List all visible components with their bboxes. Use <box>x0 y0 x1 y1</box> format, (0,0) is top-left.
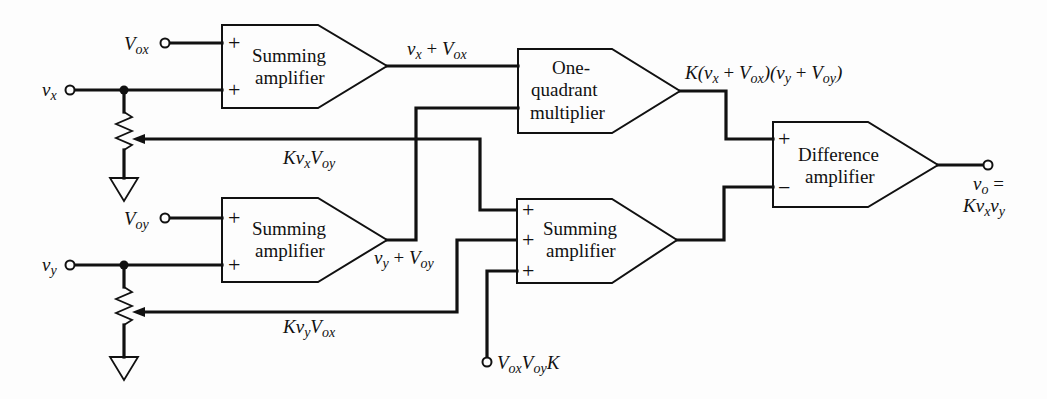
vx-terminal[interactable] <box>66 86 75 95</box>
sum-y-label-2: amplifier <box>255 240 325 261</box>
summing-amplifier-3-input: + + + Summing amplifier <box>517 197 677 283</box>
sum-x-label-1: Summing <box>252 45 326 66</box>
label-offset-constant: VoxVoyK <box>497 352 561 376</box>
wire-product <box>680 91 773 139</box>
sum3-plus-2: + <box>522 227 534 252</box>
summing-amplifier-x: + + Summing amplifier <box>222 25 387 108</box>
offset-constant-terminal[interactable] <box>483 358 492 367</box>
potentiometer-y <box>116 287 132 325</box>
ground-x-icon <box>110 178 138 201</box>
label-vy-plus-voy: vy + Voy <box>374 247 434 271</box>
voy-label: Voy <box>124 208 150 232</box>
one-quadrant-multiplier: One- quadrant multiplier <box>518 49 680 133</box>
voy-input: Voy <box>124 208 222 232</box>
sum-x-plus-2: + <box>228 77 240 102</box>
sum3-plus-3: + <box>522 258 534 283</box>
summing-amplifier-y: + + Summing amplifier <box>222 198 387 282</box>
label-vx-plus-vox: vx + Vox <box>407 38 467 62</box>
wiper-x-arrow-icon <box>132 134 145 144</box>
sum-y-plus-2: + <box>228 252 240 277</box>
vy-label: vy <box>42 254 57 278</box>
sum3-plus-1: + <box>522 197 534 222</box>
potentiometer-x <box>116 112 132 150</box>
ground-y-icon <box>110 357 138 380</box>
difference-amplifier: + − Difference amplifier <box>773 122 938 207</box>
vy-terminal[interactable] <box>66 261 75 270</box>
diff-plus-sign: + <box>778 126 790 151</box>
label-k-vx-voy: KvxVoy <box>282 147 336 171</box>
output-terminal[interactable] <box>984 161 993 170</box>
sum3-label-1: Summing <box>543 218 617 239</box>
diff-label-1: Difference <box>798 144 879 165</box>
voy-terminal[interactable] <box>161 214 170 223</box>
mult-label-3: multiplier <box>530 102 606 123</box>
vox-label: Vox <box>124 33 150 57</box>
sum-x-label-2: amplifier <box>255 67 325 88</box>
label-k-vy-vox: KvyVox <box>282 316 336 340</box>
sum-x-plus-1: + <box>228 30 240 55</box>
sum-y-plus-1: + <box>228 205 240 230</box>
output-vo: vo = Kvxvy <box>938 161 1006 220</box>
sum3-label-2: amplifier <box>546 240 616 261</box>
mult-label-1: One- <box>552 57 590 78</box>
four-quadrant-multiplier-diagram: + + Summing amplifier Vox vx + + Summing… <box>0 0 1047 399</box>
wire-vy-plus-voy <box>387 108 518 240</box>
offset-constant-input: VoxVoyK <box>483 271 561 376</box>
sum-y-label-1: Summing <box>252 218 326 239</box>
label-output-line1: vo = <box>973 173 1004 197</box>
vox-input: Vox <box>124 33 222 57</box>
diff-label-2: amplifier <box>805 166 875 187</box>
mult-label-2: quadrant <box>531 79 598 100</box>
vox-terminal[interactable] <box>161 39 170 48</box>
diff-minus-sign: − <box>778 175 790 200</box>
wiper-y-arrow-icon <box>132 307 145 317</box>
wire-correction-sum <box>677 187 773 240</box>
vy-input: vy <box>42 254 222 380</box>
label-output-line2: Kvxvy <box>962 195 1006 219</box>
label-product: K(vx + Vox)(vy + Voy) <box>684 62 842 86</box>
wire-k-vx-voy <box>142 139 517 210</box>
vx-label: vx <box>42 79 57 103</box>
